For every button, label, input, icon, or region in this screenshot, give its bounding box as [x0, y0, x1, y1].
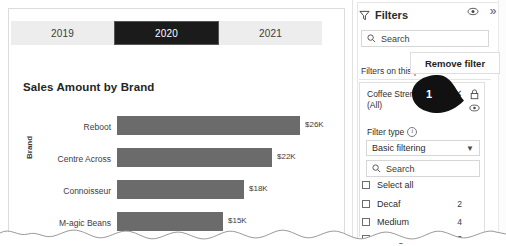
slicer-item-2019[interactable]: 2019 [11, 21, 114, 45]
report-canvas: 2019 2020 2021 Sales Amount by Brand Bra… [8, 8, 345, 236]
bar-value-label: $26K [305, 120, 324, 129]
filter-values-search-input[interactable]: Search [366, 160, 480, 177]
list-item-count: 2 [457, 199, 474, 209]
list-item-strong[interactable]: Strong 3 [362, 231, 474, 246]
eye-icon[interactable] [466, 4, 480, 18]
filter-type-dropdown[interactable]: Basic filtering ▼ [366, 140, 480, 156]
chart-title: Sales Amount by Brand [23, 81, 154, 93]
tooltip-text: Remove filter [425, 58, 485, 69]
search-input[interactable]: Search [361, 30, 489, 47]
search-placeholder: Search [381, 34, 410, 44]
bar-value-label: $15K [228, 216, 247, 225]
checkbox[interactable] [362, 235, 370, 243]
filter-type-value: Basic filtering [372, 143, 426, 153]
funnel-icon [359, 10, 370, 21]
step-callout-marker [410, 74, 466, 114]
search-placeholder: Search [386, 164, 415, 174]
bar-track: $26K [117, 115, 335, 138]
slicer-label: 2020 [155, 28, 178, 39]
list-item-label: Medium [377, 217, 409, 227]
y-axis-title: Brand [25, 136, 34, 159]
bar-track: $22K [117, 147, 335, 170]
lock-icon[interactable] [468, 88, 480, 100]
list-item-label: Strong [377, 234, 404, 244]
bar-value-label: $22K [277, 152, 296, 161]
list-item-medium[interactable]: Medium 4 [362, 214, 474, 229]
list-item-label: Decaf [377, 199, 401, 209]
table-row[interactable]: Reboot $26K [35, 115, 335, 138]
tooltip-remove-filter: Remove filter [410, 52, 500, 74]
year-slicer[interactable]: 2019 2020 2021 [11, 21, 322, 45]
slicer-item-2020[interactable]: 2020 [114, 21, 219, 45]
bar-fill[interactable] [117, 180, 244, 199]
bar-category-label: Connoisseur [35, 186, 117, 196]
bar-value-label: $18K [249, 184, 268, 193]
table-row[interactable]: Centre Across $22K [35, 147, 335, 170]
slicer-label: 2019 [51, 28, 74, 39]
bar-track: $18K [117, 179, 335, 202]
bar-fill[interactable] [117, 148, 272, 167]
slicer-label: 2021 [259, 28, 282, 39]
double-chevron-right-icon[interactable]: » [486, 4, 500, 18]
list-item-count: 4 [457, 217, 474, 227]
list-item-label: Select all [377, 180, 414, 190]
list-item-select-all[interactable]: Select all [362, 177, 474, 192]
bar-category-label: M-agic Beans [35, 218, 117, 228]
table-row[interactable]: M-agic Beans $15K [35, 211, 335, 234]
bar-category-label: Reboot [35, 122, 117, 132]
step-number-label: 1 [420, 85, 438, 103]
search-icon [362, 34, 376, 43]
filters-pane: Filters » Search Filters on this p ... C… [352, 0, 506, 243]
info-icon[interactable]: i [407, 127, 417, 137]
bar-category-label: Centre Across [35, 154, 117, 164]
bar-track: $15K [117, 211, 335, 234]
slicer-item-2021[interactable]: 2021 [219, 21, 322, 45]
chevron-down-icon: ▼ [466, 144, 474, 153]
pane-right-edge [498, 0, 506, 243]
list-item-decaf[interactable]: Decaf 2 [362, 196, 474, 211]
filter-type-label: Filter type i [367, 127, 417, 137]
search-icon [367, 164, 381, 173]
eye-icon[interactable] [468, 102, 480, 114]
page-title: Filters [375, 9, 408, 21]
bar-fill[interactable] [117, 116, 300, 135]
checkbox[interactable] [362, 218, 370, 226]
filter-type-text: Filter type [367, 127, 404, 137]
table-row[interactable]: Connoisseur $18K [35, 179, 335, 202]
bar-fill[interactable] [117, 212, 223, 231]
checkbox[interactable] [362, 200, 370, 208]
checkbox[interactable] [362, 181, 370, 189]
list-item-count: 3 [457, 234, 474, 244]
